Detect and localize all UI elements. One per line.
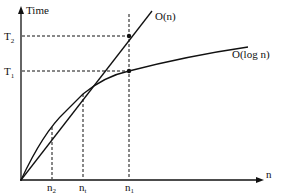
complexity-diagram: Time n O(n) O(log n) T2 T1 n2 nt n1 (0, 0, 290, 194)
y-tick-t1: T1 (4, 65, 15, 80)
x-tick-n1: n1 (125, 181, 135, 194)
y-tick-t1-sub: 1 (11, 72, 15, 80)
axes (20, 12, 257, 181)
linear-curve (21, 11, 152, 180)
linear-curve-label: O(n) (155, 10, 176, 23)
y-axis-arrow-icon (18, 6, 24, 14)
guide-lines (22, 14, 129, 179)
x-tick-n1-sub: 1 (131, 187, 135, 194)
x-axis-label: n (266, 168, 272, 180)
x-tick-nt-sub: t (85, 187, 87, 194)
t1-point (127, 69, 131, 73)
y-tick-t2-sub: 2 (11, 37, 15, 45)
y-tick-t2: T2 (4, 30, 15, 45)
x-tick-n2: n2 (47, 181, 57, 194)
logarithmic-curve-label: O(log n) (232, 48, 270, 61)
x-tick-n2-sub: 2 (53, 187, 57, 194)
t2-point (127, 34, 131, 38)
logarithmic-curve (21, 47, 248, 180)
x-tick-nt: nt (79, 181, 87, 194)
y-axis-label: Time (26, 4, 49, 16)
x-axis-arrow-icon (256, 177, 264, 183)
